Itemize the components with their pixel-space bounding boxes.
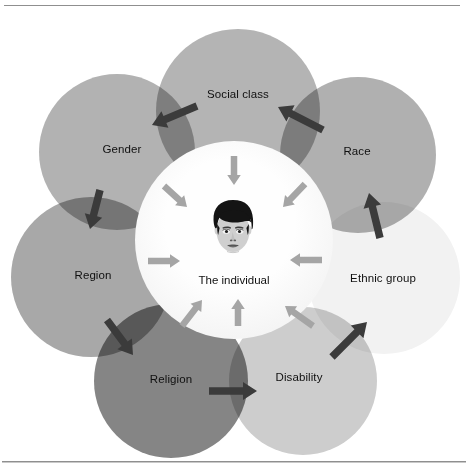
arrow-disability-to-ethnicgroup <box>329 322 367 360</box>
inner-arrow-bottom-right <box>285 306 315 329</box>
label-gender: Gender <box>103 144 142 156</box>
inner-arrow-top <box>227 156 241 185</box>
arrow-religion-to-disability <box>209 382 257 400</box>
label-disability: Disability <box>275 372 322 384</box>
figure-canvas: Social class Race Ethnic group Disabilit… <box>0 0 470 474</box>
inner-arrow-left <box>148 254 180 268</box>
inner-arrow-top-left <box>162 184 187 207</box>
arrow-gender-to-region <box>85 189 104 229</box>
bottom-divider-rule-shadow <box>2 462 466 463</box>
arrow-region-to-religion <box>104 318 133 355</box>
inner-arrow-bottom-left <box>179 300 202 328</box>
arrow-ethnicgroup-to-race <box>364 193 384 239</box>
label-region: Region <box>74 270 111 282</box>
inner-arrow-bottom <box>231 299 245 326</box>
arrow-socialclass-to-gender <box>152 103 198 128</box>
label-race: Race <box>343 146 370 158</box>
individual-face-illustration <box>205 197 261 259</box>
label-social-class: Social class <box>207 89 269 101</box>
inner-arrow-right <box>290 253 322 267</box>
individual-influences-diagram: Social class Race Ethnic group Disabilit… <box>0 0 470 474</box>
label-the-individual: The individual <box>199 275 270 287</box>
arrow-race-to-socialclass <box>278 105 325 133</box>
inner-arrow-top-right <box>283 182 307 207</box>
label-ethnic-group: Ethnic group <box>350 273 416 285</box>
label-religion: Religion <box>150 374 192 386</box>
